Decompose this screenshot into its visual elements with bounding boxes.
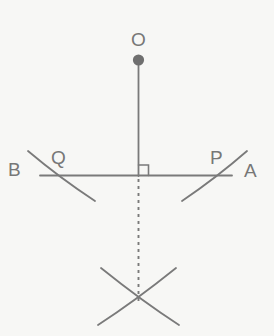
point-o-marker <box>133 54 144 65</box>
point-b-label: B <box>8 160 21 179</box>
construction-drawing <box>0 0 274 336</box>
right-angle-marker <box>139 165 149 176</box>
point-q-label: Q <box>51 148 66 167</box>
point-a-label: A <box>244 161 257 180</box>
point-o-label: O <box>131 30 146 49</box>
geometry-figure: O B Q P A <box>0 0 274 336</box>
point-p-label: P <box>210 148 223 167</box>
